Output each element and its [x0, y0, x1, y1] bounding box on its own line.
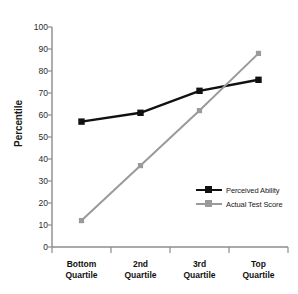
- data-point-marker: [196, 88, 202, 94]
- data-point-marker: [78, 118, 84, 124]
- y-axis-tick-label: 60: [22, 111, 48, 120]
- data-point-marker: [79, 218, 84, 223]
- chart-container: Percentile 1009080706050403020100 Bottom…: [0, 0, 298, 294]
- y-axis-tick-label: 90: [22, 45, 48, 54]
- data-point-marker: [256, 51, 261, 56]
- legend-label-actual-test-score: Actual Test Score: [226, 200, 283, 209]
- chart-legend: Perceived Ability Actual Test Score: [196, 184, 296, 212]
- y-axis-tick-label: 0: [22, 243, 48, 252]
- legend-item-actual-test-score: Actual Test Score: [196, 198, 296, 210]
- y-axis-tick-label: 70: [22, 89, 48, 98]
- y-axis-tick-labels: 1009080706050403020100: [22, 0, 48, 294]
- y-axis-tick-label: 10: [22, 221, 48, 230]
- y-axis-tick-label: 40: [22, 155, 48, 164]
- y-axis-tick-label: 50: [22, 133, 48, 142]
- series-line-perceived-ability: [82, 80, 259, 122]
- data-point-marker: [137, 110, 143, 116]
- y-axis-tick-label: 20: [22, 199, 48, 208]
- legend-label-perceived-ability: Perceived Ability: [226, 186, 279, 195]
- data-point-marker: [138, 163, 143, 168]
- legend-marker-actual-test-score: [196, 199, 222, 209]
- y-axis-tick-label: 80: [22, 67, 48, 76]
- y-axis-tick-label: 100: [22, 23, 48, 32]
- data-point-marker: [197, 108, 202, 113]
- data-point-marker: [255, 77, 261, 83]
- x-axis-tick-label: 2ndQuartile: [111, 259, 171, 280]
- legend-item-perceived-ability: Perceived Ability: [196, 184, 296, 196]
- y-axis-tick-label: 30: [22, 177, 48, 186]
- x-axis-tick-label: TopQuartile: [229, 259, 289, 280]
- legend-marker-perceived-ability: [196, 185, 222, 195]
- x-axis-tick-label: BottomQuartile: [52, 259, 112, 280]
- x-axis-tick-label: 3rdQuartile: [170, 259, 230, 280]
